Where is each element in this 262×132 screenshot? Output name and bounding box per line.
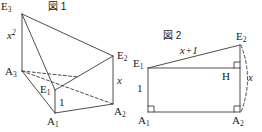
right-angle-a2	[234, 106, 240, 112]
figure-screenshot: 図 1 E3 x2 A3 E2 x A2 E1 1 A1 図 2	[0, 0, 262, 132]
figure2-label-h: H	[222, 71, 230, 82]
figure2-label-a2: A2	[232, 115, 244, 126]
right-angle-h	[234, 62, 240, 68]
arc-x-fig2	[241, 45, 248, 112]
figure2-label-a1: A1	[138, 115, 150, 126]
right-angle-a1	[148, 106, 154, 112]
figure2-label-x: x	[248, 72, 253, 83]
figure2-label-one: 1	[137, 83, 143, 94]
figure2-drawing	[0, 0, 262, 132]
figure2-label-e2: E2	[236, 31, 246, 42]
figure2-label-e1: E1	[133, 58, 143, 69]
figure2-label-x-plus-one: x+1	[180, 45, 198, 56]
figure2-title: 図 2	[163, 31, 181, 41]
